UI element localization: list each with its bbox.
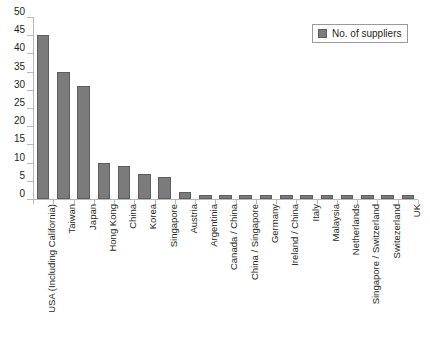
- bar: [179, 192, 192, 199]
- bar: [199, 195, 212, 199]
- bar: [341, 195, 354, 199]
- y-axis-tick-label: 30: [0, 80, 25, 90]
- x-axis-label: Switezerland: [377, 204, 397, 355]
- bar: [138, 174, 151, 199]
- x-axis-label: Argentinia: [195, 204, 215, 355]
- y-axis-tick-label: 45: [0, 25, 25, 35]
- bar: [280, 195, 293, 199]
- bar-series: [33, 17, 418, 199]
- y-axis-tick-label: 40: [0, 43, 25, 53]
- x-axis-line: [33, 199, 418, 200]
- bar: [57, 72, 70, 199]
- x-axis-labels: USA (Including California)TaiwanJapanHon…: [33, 204, 418, 355]
- bar: [361, 195, 374, 199]
- x-axis-label: Malaysia: [317, 204, 337, 355]
- x-axis-label: China / Singapore: [236, 204, 256, 355]
- y-axis-tick-label: 20: [0, 116, 25, 126]
- y-axis-tick-label: 15: [0, 134, 25, 144]
- x-axis-label: Hong Kong: [94, 204, 114, 355]
- y-axis-tick-label: 10: [0, 153, 25, 163]
- x-axis-label: Germany: [256, 204, 276, 355]
- x-axis-label: Singapore / Switzerland: [357, 204, 377, 355]
- x-axis-label: UK: [398, 204, 418, 355]
- bar: [381, 195, 394, 199]
- bar: [260, 195, 273, 199]
- bar: [321, 195, 334, 199]
- bar-chart: 05101520253035404550 USA (Including Cali…: [0, 0, 430, 355]
- bar: [98, 163, 111, 199]
- bar: [402, 195, 415, 199]
- y-axis-tick-label: 50: [0, 7, 25, 17]
- x-axis-label: Ireland / China: [276, 204, 296, 355]
- x-axis-label: Canada / China: [215, 204, 235, 355]
- y-axis-tick-label: 25: [0, 98, 25, 108]
- bar: [219, 195, 232, 199]
- x-axis-label: Taiwan: [53, 204, 73, 355]
- legend-swatch-icon: [318, 29, 327, 38]
- bar: [300, 195, 313, 199]
- bar: [37, 35, 50, 199]
- x-axis-label: USA (Including California): [33, 204, 53, 355]
- bar: [239, 195, 252, 199]
- x-axis-label: Japan: [74, 204, 94, 355]
- x-axis-label: Singapore: [155, 204, 175, 355]
- legend-item-label: No. of suppliers: [332, 28, 401, 39]
- x-axis-label: Italy: [296, 204, 316, 355]
- y-axis-tick-label: 35: [0, 62, 25, 72]
- x-axis-label: Korea: [134, 204, 154, 355]
- bar: [77, 86, 90, 199]
- x-axis-label: China: [114, 204, 134, 355]
- chart-legend: No. of suppliers: [312, 24, 408, 43]
- bar: [118, 166, 131, 199]
- y-axis-tick-label: 0: [0, 189, 25, 199]
- bar: [158, 177, 171, 199]
- x-axis-label: Austria: [175, 204, 195, 355]
- x-axis-label: Netherlands: [337, 204, 357, 355]
- y-axis-tick-label: 5: [0, 171, 25, 181]
